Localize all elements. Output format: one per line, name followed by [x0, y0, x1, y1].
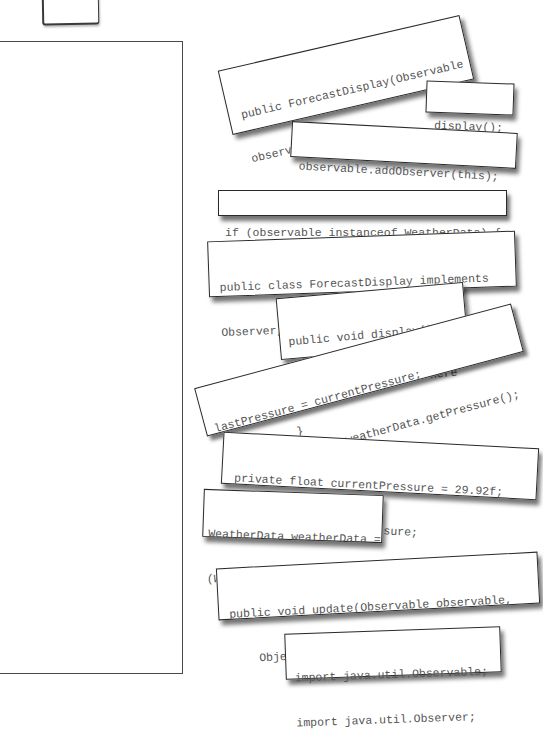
- magnet-line: import java.util.Observable;: [295, 664, 493, 686]
- magnet-weatherdata-cast[interactable]: WeatherData weatherData = (WeatherData)o…: [202, 489, 384, 543]
- magnet-line: public void update(Observable observable…: [229, 591, 529, 622]
- magnet-line: observable.addObserver(this);: [298, 159, 507, 185]
- magnet-line: import java.util.Observer;: [296, 709, 494, 731]
- magnet-imports[interactable]: import java.util.Observable; import java…: [284, 626, 501, 680]
- magnet-instanceof-check[interactable]: if (observable instanceof WeatherData) {: [218, 190, 507, 216]
- answer-panel[interactable]: [0, 41, 183, 674]
- magnet-pressure-fields[interactable]: private float currentPressure = 29.92f; …: [221, 432, 539, 500]
- top-magnet-box: [42, 0, 100, 25]
- magnet-line: lastPressure = currentPressure;: [212, 341, 515, 436]
- magnet-line: WeatherData weatherData =: [208, 526, 376, 547]
- magnet-display-call[interactable]: display();: [425, 80, 514, 115]
- magnet-class-declaration[interactable]: public class ForecastDisplay implements …: [207, 231, 517, 298]
